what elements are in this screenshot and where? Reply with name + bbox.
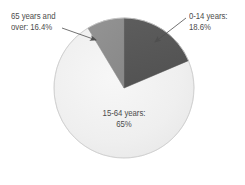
pie-chart-figure: 65 years and over: 16.4% 0-14 years: 18.… — [0, 0, 245, 185]
pie-label-65-over: 65 years and over: 16.4% — [11, 11, 78, 32]
pie-label-15-64: 15-64 years: 65% — [81, 108, 167, 129]
pie-label-0-14: 0-14 years: 18.6% — [189, 11, 241, 32]
